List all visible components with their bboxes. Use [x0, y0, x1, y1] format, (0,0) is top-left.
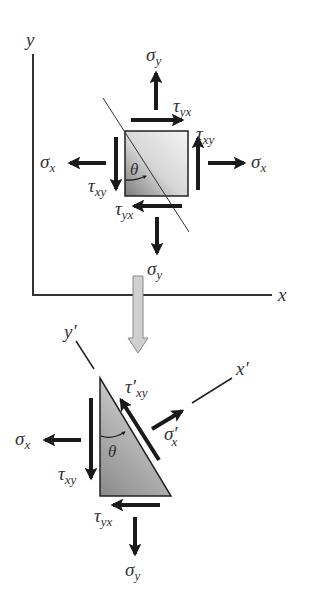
tau-xy-left-label: τxy	[88, 175, 107, 199]
x-prime-label: x′	[235, 358, 249, 379]
rotated-axes: y′ x′	[62, 321, 249, 403]
tau-xy-left-label: τxy	[58, 463, 77, 487]
tau-prime-xy-label: τ′xy	[125, 376, 148, 400]
sigma-x-left-label: σx	[40, 151, 55, 175]
stress-transformation-diagram: y x θ σy τyx τxy σx σx τxy τyx σy y′ x′	[0, 0, 319, 600]
y-prime-axis	[76, 341, 94, 369]
tau-yx-bottom-label: τyx	[94, 505, 113, 529]
sigma-prime-x-label: σ′x	[164, 423, 178, 449]
sigma-x-left-label: σx	[15, 428, 30, 452]
sigma-x-right-label: σx	[251, 151, 266, 175]
sigma-y-bottom-label: σy	[147, 258, 162, 282]
transition-down-arrow-icon	[128, 276, 148, 353]
tau-yx-bottom-label: τyx	[115, 198, 134, 222]
sigma-y-bottom-label: σy	[125, 559, 140, 583]
x-prime-axis	[192, 378, 232, 403]
y-axis-label: y	[24, 29, 35, 50]
tau-xy-right-label: τxy	[196, 123, 215, 147]
tau-yx-top-label: τyx	[173, 95, 192, 119]
y-prime-label: y′	[62, 321, 77, 342]
theta-label-lower: θ	[108, 442, 116, 461]
theta-label: θ	[130, 160, 138, 179]
sigma-y-top-label: σy	[146, 44, 161, 68]
x-axis-label: x	[277, 284, 287, 305]
